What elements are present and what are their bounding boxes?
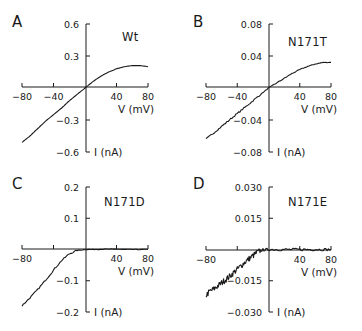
y-tick-label: −0.08 bbox=[233, 147, 262, 158]
y-tick-label: −0.030 bbox=[227, 307, 262, 318]
panel-letter: B bbox=[193, 13, 203, 31]
y-tick-label: 0.2 bbox=[64, 182, 79, 193]
x-tick-label: −80 bbox=[12, 253, 32, 264]
x-tick-label: −40 bbox=[43, 91, 63, 102]
y-tick-label: 0.6 bbox=[64, 19, 79, 30]
x-tick-label: 40 bbox=[294, 91, 306, 102]
figure: A Wt −80−404080−0.6−0.30.30.6V (mV)I (nA… bbox=[0, 0, 362, 331]
y-tick-label: 0.015 bbox=[235, 213, 262, 224]
y-axis-label: I (nA) bbox=[94, 146, 122, 158]
x-tick-label: 80 bbox=[325, 254, 337, 265]
x-tick-label: −80 bbox=[196, 254, 216, 265]
x-tick-label: 40 bbox=[110, 91, 122, 102]
x-tick-label: −80 bbox=[12, 91, 32, 102]
x-tick-label: 80 bbox=[142, 253, 154, 264]
iv-trace bbox=[22, 249, 148, 306]
x-tick-label: −40 bbox=[227, 91, 247, 102]
x-tick-label: 40 bbox=[294, 254, 306, 265]
panel-letter: A bbox=[12, 13, 23, 31]
y-tick-label: −0.6 bbox=[56, 147, 79, 158]
series-label: N171E bbox=[288, 195, 327, 209]
series-label: N171D bbox=[104, 195, 145, 209]
x-axis-label: V (mV) bbox=[301, 266, 337, 278]
y-tick-label: −0.3 bbox=[56, 115, 79, 126]
x-axis-label: V (mV) bbox=[301, 103, 337, 115]
series-label: N171T bbox=[288, 35, 328, 49]
panel-c: C N171D −804080−0.2−0.10.10.2V (mV)I (nA… bbox=[12, 175, 154, 318]
y-tick-label: 0.04 bbox=[241, 51, 262, 62]
x-tick-label: 80 bbox=[142, 91, 154, 102]
panel-letter: D bbox=[193, 175, 205, 193]
series-label: Wt bbox=[122, 30, 139, 44]
x-tick-label: −80 bbox=[196, 91, 216, 102]
x-axis-label: V (mV) bbox=[118, 265, 154, 277]
x-axis-label: V (mV) bbox=[118, 103, 154, 115]
y-axis-label: I (nA) bbox=[277, 146, 305, 158]
y-tick-label: 0.1 bbox=[64, 213, 79, 224]
y-axis-label: I (nA) bbox=[94, 306, 122, 318]
panel-a: A Wt −80−404080−0.6−0.30.30.6V (mV)I (nA… bbox=[12, 13, 154, 158]
y-tick-label: 0.030 bbox=[235, 182, 262, 193]
y-tick-label: 0.3 bbox=[64, 51, 79, 62]
y-tick-label: −0.2 bbox=[56, 307, 79, 318]
x-tick-label: 40 bbox=[110, 253, 122, 264]
panel-d: D N171E −804080−0.030−0.0150.0150.030V (… bbox=[193, 175, 337, 318]
y-tick-label: 0.08 bbox=[241, 19, 262, 30]
x-tick-label: 80 bbox=[325, 91, 337, 102]
panel-b: B N171T −80−404080−0.08−0.040.040.08V (m… bbox=[193, 13, 337, 158]
y-tick-label: −0.1 bbox=[56, 275, 79, 286]
y-tick-label: −0.015 bbox=[227, 275, 262, 286]
y-tick-label: −0.04 bbox=[233, 115, 262, 126]
y-axis-label: I (nA) bbox=[277, 306, 305, 318]
panel-letter: C bbox=[12, 175, 22, 193]
